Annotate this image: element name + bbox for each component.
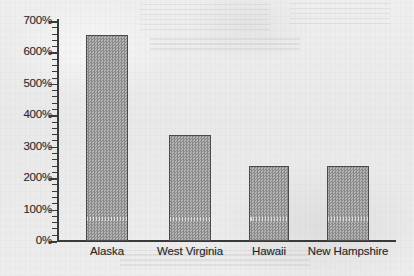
y-axis-tick-label: 700% <box>6 15 52 27</box>
bar <box>169 135 211 241</box>
y-axis-major-tick <box>49 115 57 117</box>
y-axis-major-tick <box>49 84 57 86</box>
y-axis-tick-label: 500% <box>6 78 52 90</box>
bar-dotted-band <box>170 217 210 221</box>
y-axis-line <box>57 19 59 242</box>
bar-chart: 700%600%500%400%300%200%100%0% AlaskaWes… <box>0 0 414 276</box>
y-axis-major-tick <box>49 21 57 23</box>
y-axis-tick-labels: 700%600%500%400%300%200%100%0% <box>0 0 52 276</box>
x-axis-category-label: New Hampshire <box>308 245 389 258</box>
x-axis-category-label: West Virginia <box>157 245 223 258</box>
bar-dotted-band <box>328 217 368 221</box>
bar <box>86 35 128 241</box>
y-axis-tick-label: 300% <box>6 141 52 153</box>
bar-dotted-band <box>87 217 127 221</box>
y-axis-major-tick <box>49 178 57 180</box>
x-axis-category-label: Alaska <box>90 245 124 258</box>
bar-dotted-band <box>250 217 288 221</box>
y-axis-major-tick <box>49 52 57 54</box>
y-axis-tick-label: 600% <box>6 47 52 59</box>
scanned-chart-page: 700%600%500%400%300%200%100%0% AlaskaWes… <box>0 0 414 276</box>
y-axis-tick-label: 100% <box>6 204 52 216</box>
bar <box>249 166 289 241</box>
y-axis-major-tick <box>49 210 57 212</box>
x-axis-category-label: Hawaii <box>252 245 286 258</box>
y-axis-major-tick <box>49 147 57 149</box>
y-axis-major-tick <box>49 241 57 243</box>
bar <box>327 166 369 241</box>
y-axis-tick-label: 0% <box>6 235 52 247</box>
y-axis-tick-label: 400% <box>6 110 52 122</box>
y-axis-tick-label: 200% <box>6 172 52 184</box>
